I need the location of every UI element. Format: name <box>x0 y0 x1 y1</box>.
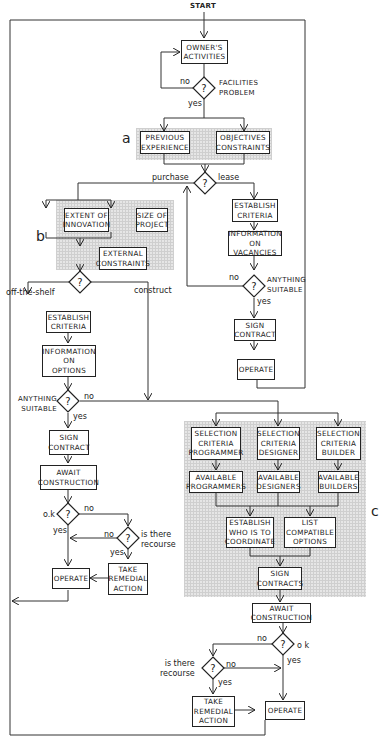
construct-label: construct <box>134 286 172 296</box>
start-label: START <box>190 2 216 12</box>
selection-criteria-designer-box: SELECTION CRITERIA DESIGNER <box>257 427 300 460</box>
information-on-options-box: INFORMATION ON OPTIONS <box>42 345 96 377</box>
construct-ok-label: o k <box>297 641 309 651</box>
lease-operate-box: OPERATE <box>237 359 275 380</box>
construct-ok-yes-label: yes <box>287 656 301 666</box>
shelf-recourse-no-label: no <box>104 530 114 540</box>
size-of-project-box: SIZE OF PROJECT <box>136 208 168 232</box>
selection-criteria-programmer-box: SELECTION CRITERIA PROGRAMMER <box>191 427 241 460</box>
shelf-take-remedial-action-box: TAKE REMEDIAL ACTION <box>108 563 148 595</box>
construct-operate-box: OPERATE <box>265 701 305 720</box>
extent-of-innovation-box: EXTENT OF INNOVATION <box>64 208 109 232</box>
list-compatible-options-box: LIST COMPATIBLE OPTIONS <box>284 517 336 548</box>
lease-anything-suitable-label: ANYTHING SUITABLE <box>267 276 306 295</box>
shelf-ok-label: o.k <box>43 510 55 520</box>
available-programmers-box: AVAILABLE PROGRAMMERS <box>189 471 243 493</box>
shelf-sign-contract-box: SIGN CONTRACT <box>49 430 89 455</box>
lease-sign-contract-box: SIGN CONTRACT <box>234 319 276 341</box>
question-icon: ? <box>201 83 206 94</box>
question-icon: ? <box>280 639 285 650</box>
sign-contracts-box: SIGN CONTRACTS <box>258 567 302 590</box>
shelf-ok-no-label: no <box>84 504 94 514</box>
lease-suitable-no-label: no <box>229 273 239 283</box>
available-designers-box: AVAILABLE DESIGNERS <box>257 471 300 493</box>
purchase-label: purchase <box>152 173 189 183</box>
question-icon: ? <box>77 277 82 288</box>
shelf-ok-yes-label: yes <box>53 526 67 536</box>
lease-suitable-yes-label: yes <box>257 297 271 307</box>
question-icon: ? <box>125 533 130 544</box>
objectives-constraints-box: OBJECTIVES CONSTRAINTS <box>216 131 270 154</box>
construct-recourse-yes-label: yes <box>218 678 232 688</box>
owner-activities-box: OWNER'S ACTIVITIES <box>181 40 228 64</box>
question-icon: ? <box>65 396 70 407</box>
section-b-label: b <box>36 228 45 244</box>
facilities-yes-label: yes <box>188 99 202 109</box>
flowchart: ? ? ? ? ? ? ? ? ? START OWNER'S ACTIVITI… <box>0 0 384 740</box>
section-c-label: c <box>371 503 379 519</box>
shelf-suitable-yes-label: yes <box>73 412 87 422</box>
shelf-operate-box: OPERATE <box>52 568 90 589</box>
off-the-shelf-label: off-the-shelf <box>6 288 55 298</box>
section-a-label: a <box>122 130 131 146</box>
previous-experience-box: PREVIOUS EXPERIENCE <box>140 131 190 154</box>
external-constraints-box: EXTERNAL CONSTRAINTS <box>99 247 147 270</box>
facilities-no-label: no <box>180 77 190 87</box>
question-icon: ? <box>210 663 215 674</box>
shelf-recourse-yes-label: yes <box>110 548 124 558</box>
question-icon: ? <box>251 281 256 292</box>
shelf-suitable-no-label: no <box>84 392 94 402</box>
construct-recourse-no-label: no <box>226 660 236 670</box>
shelf-anything-suitable-label: ANYTHING SUITABLE <box>18 395 57 414</box>
lease-label: lease <box>218 173 239 183</box>
establish-who-coordinate-box: ESTABLISH WHO IS TO COORDINATE <box>226 517 274 548</box>
selection-criteria-builder-box: SELECTION CRITERIA BUILDER <box>316 427 361 460</box>
available-builders-box: AVAILABLE BUILDERS <box>318 471 359 493</box>
shelf-await-construction-box: AWAIT CONSTRUCTION <box>40 465 97 490</box>
lease-establish-criteria-box: ESTABLISH CRITERIA <box>232 199 278 222</box>
information-on-vacancies-box: INFORMATION ON VACANCIES <box>228 231 282 256</box>
facilities-problem-label: FACILITIES PROBLEM <box>219 79 258 98</box>
construct-await-construction-box: AWAIT CONSTRUCTION <box>252 603 311 623</box>
question-icon: ? <box>202 178 207 189</box>
construct-take-remedial-action-box: TAKE REMEDIAL ACTION <box>192 696 235 727</box>
question-icon: ? <box>65 509 70 520</box>
shelf-recourse-label: is there recourse <box>141 530 176 550</box>
construct-recourse-label: is there recourse <box>160 659 195 679</box>
construct-ok-no-label: no <box>257 634 267 644</box>
shelf-establish-criteria-box: ESTABLISH CRITERIA <box>46 311 91 333</box>
